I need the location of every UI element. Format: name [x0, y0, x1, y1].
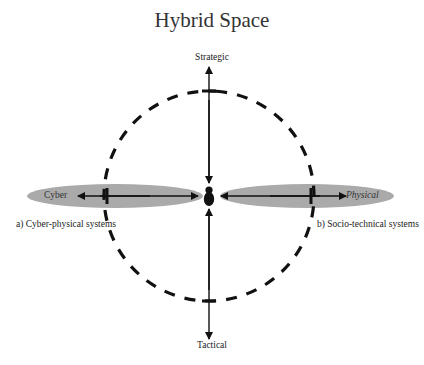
- person-icon: [204, 186, 214, 206]
- socio-technical-caption: b) Socio-technical systems: [317, 219, 419, 229]
- tactical-label: Tactical: [0, 340, 424, 350]
- physical-label: Physical: [346, 190, 379, 200]
- strategic-label: Strategic: [0, 52, 424, 62]
- cyber-physical-caption: a) Cyber-physical systems: [16, 219, 116, 229]
- cyber-label: Cyber: [44, 190, 67, 200]
- diagram-title: Hybrid Space: [0, 8, 424, 33]
